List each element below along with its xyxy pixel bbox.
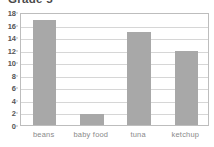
y-tick-label: 16	[8, 21, 16, 30]
bar	[80, 114, 104, 125]
y-tick-mark	[16, 13, 18, 14]
bar	[33, 20, 57, 125]
x-tick-label: tuna	[130, 130, 145, 139]
y-tick-mark	[16, 38, 18, 39]
bar-chart-figure: Grade 5 024681012141618 beansbaby foodtu…	[0, 0, 214, 147]
page-title: Grade 5	[8, 0, 53, 5]
y-tick-label: 14	[8, 34, 16, 43]
y-tick-mark	[16, 126, 18, 127]
y-tick-mark	[16, 63, 18, 64]
bar	[127, 32, 151, 125]
y-tick-mark	[16, 50, 18, 51]
y-tick-mark	[16, 88, 18, 89]
x-tick-label: ketchup	[172, 130, 200, 139]
x-tick-label: baby food	[74, 130, 109, 139]
bar	[175, 51, 199, 125]
y-tick-label: 10	[8, 59, 16, 68]
y-tick-mark	[16, 25, 18, 26]
y-axis: 024681012141618	[0, 13, 18, 126]
y-tick-mark	[16, 113, 18, 114]
x-tick-label: beans	[33, 130, 54, 139]
y-tick-mark	[16, 100, 18, 101]
bars-group	[21, 14, 208, 125]
x-axis: beansbaby foodtunaketchup	[20, 128, 209, 144]
y-tick-mark	[16, 75, 18, 76]
y-tick-label: 12	[8, 46, 16, 55]
plot-area	[20, 13, 209, 126]
y-tick-label: 18	[8, 9, 16, 18]
